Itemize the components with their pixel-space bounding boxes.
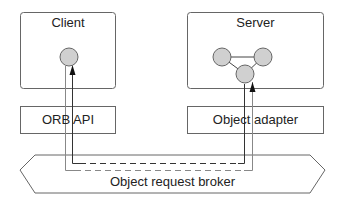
orb-api-label: ORB API xyxy=(20,112,116,127)
client-object xyxy=(60,48,78,66)
server-object-left xyxy=(213,48,231,66)
arrowhead-client-icon xyxy=(70,65,76,75)
object-adapter-label: Object adapter xyxy=(187,112,324,127)
server-title: Server xyxy=(187,15,324,30)
client-title: Client xyxy=(20,15,116,30)
arrowhead-server-icon xyxy=(250,82,256,92)
broker-label: Object request broker xyxy=(20,174,325,189)
server-object-right xyxy=(254,48,272,66)
server-object-target xyxy=(236,65,254,83)
